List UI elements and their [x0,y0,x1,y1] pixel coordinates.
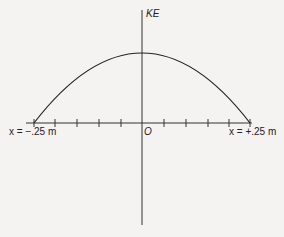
right-endpoint-label: x = +.25 m [229,126,276,137]
origin-label: O [144,126,152,137]
ke-vs-position-graph [0,0,284,237]
y-axis-label: KE [146,8,159,19]
left-endpoint-label: x = −.25 m [9,126,56,137]
